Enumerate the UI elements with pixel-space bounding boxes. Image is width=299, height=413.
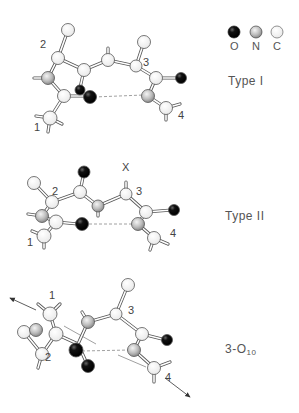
residue-label-1: 1 [34, 122, 40, 133]
residue-label-3: 3 [136, 186, 142, 197]
residue-label-3: 3 [128, 305, 134, 316]
residue-label-2: 2 [52, 186, 58, 197]
legend-carbon-icon [271, 26, 283, 38]
type-2-marker-x: X [122, 162, 129, 173]
3-10-molecule [10, 279, 190, 398]
legend-oxygen-icon [228, 26, 240, 38]
3-10-title-main: 3-O [225, 342, 247, 356]
type-1-molecule [34, 24, 187, 133]
hydrogen-bond-line [82, 350, 130, 351]
type-1-title: Type I [228, 74, 264, 88]
legend-nitrogen-icon [250, 26, 262, 38]
axis-arrow-up [10, 298, 36, 310]
residue-label-4: 4 [170, 228, 176, 239]
hydrogen-bond-line [94, 95, 144, 97]
legend [228, 26, 283, 38]
type-2-title: Type II [225, 209, 265, 223]
3-10-title-sub: 10 [247, 348, 257, 357]
type-2-molecule [28, 166, 180, 250]
residue-label-1: 1 [27, 237, 33, 248]
legend-label-nitrogen: N [252, 40, 260, 52]
residue-label-2: 2 [40, 39, 46, 50]
residue-label-1: 1 [49, 290, 55, 301]
residue-label-4: 4 [165, 372, 171, 383]
legend-label-carbon: C [273, 40, 281, 52]
residue-label-2: 2 [45, 352, 51, 363]
residue-label-4: 4 [178, 110, 184, 121]
legend-label-oxygen: O [230, 40, 239, 52]
residue-label-3: 3 [143, 57, 149, 68]
3-10-title: 3-O10 [225, 342, 256, 357]
